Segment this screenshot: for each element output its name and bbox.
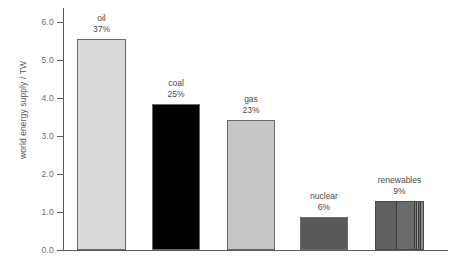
y-axis-tick-label: 0.0 <box>20 245 54 255</box>
bar-chart: world energy supply / TW 6.05.04.03.02.0… <box>0 0 453 269</box>
y-axis-tick-label: 2.0 <box>20 169 54 179</box>
bar-label-name: coal <box>136 78 216 89</box>
bar-fill <box>77 39 126 250</box>
bar-nuclear[interactable] <box>300 217 348 250</box>
bar-label-percent: 25% <box>136 89 216 100</box>
bar-renewables[interactable] <box>375 201 424 250</box>
y-axis-tick-label: 5.0 <box>20 55 54 65</box>
bar-segments-renewables <box>375 201 424 250</box>
bar-label-percent: 9% <box>360 186 440 197</box>
bar-label-name: gas <box>211 94 291 105</box>
bar-segment <box>397 202 415 249</box>
bar-label-renewables: renewables9% <box>360 175 440 197</box>
bar-label-name: nuclear <box>284 191 364 202</box>
bar-label-gas: gas23% <box>211 94 291 116</box>
x-axis-line <box>63 250 448 251</box>
bar-fill <box>152 104 200 250</box>
bar-oil[interactable] <box>77 39 126 250</box>
bar-label-percent: 23% <box>211 105 291 116</box>
bar-fill <box>300 217 348 250</box>
bar-label-coal: coal25% <box>136 78 216 100</box>
bar-label-name: renewables <box>360 175 440 186</box>
bar-label-name: oil <box>62 13 142 24</box>
y-axis-tick-mark <box>57 98 64 99</box>
bar-label-percent: 6% <box>284 202 364 213</box>
bar-coal[interactable] <box>152 104 200 250</box>
y-axis-tick-label: 4.0 <box>20 93 54 103</box>
bar-segment <box>376 202 397 249</box>
bar-label-oil: oil37% <box>62 13 142 35</box>
y-axis-tick-mark <box>57 250 64 251</box>
bar-gas[interactable] <box>227 120 275 250</box>
y-axis-tick-mark <box>57 212 64 213</box>
bar-label-percent: 37% <box>62 24 142 35</box>
y-axis-tick-label: 6.0 <box>20 17 54 27</box>
y-axis-line <box>63 8 64 251</box>
bar-fill <box>227 120 275 250</box>
bar-label-nuclear: nuclear6% <box>284 191 364 213</box>
y-axis-tick-mark <box>57 136 64 137</box>
y-axis-tick-mark <box>57 60 64 61</box>
y-axis-tick-label: 3.0 <box>20 131 54 141</box>
y-axis-tick-label: 1.0 <box>20 207 54 217</box>
y-axis-tick-mark <box>57 174 64 175</box>
bar-segment <box>421 202 423 249</box>
